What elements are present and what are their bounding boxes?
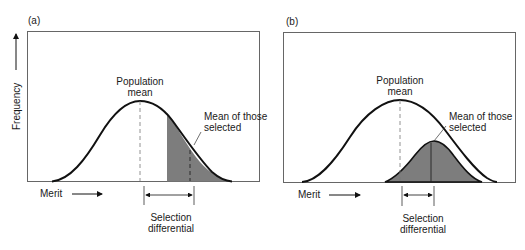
selected-curve [385,141,482,182]
selection-differential-label: Selection differential [140,212,202,234]
merit-axis-label: Merit [298,189,320,200]
population-mean-label-line1: Population [112,76,168,87]
population-mean-label: Population mean [372,75,428,97]
population-mean-label-line2: mean [112,87,168,98]
sd-label-line1: Selection [392,213,454,224]
selected-mean-leader [434,126,446,141]
selected-mean-leader [194,132,201,145]
selected-mean-label-line2: selected [204,122,267,133]
sd-label-line1: Selection [140,212,202,223]
selected-mean-label-line2: selected [449,122,512,133]
selected-mean-label-line1: Mean of those [449,111,512,122]
panel-a-tag: (a) [28,15,40,26]
sd-label-line2: differential [392,224,454,235]
selected-mean-label-line1: Mean of those [204,111,267,122]
sd-label-line2: differential [140,223,202,234]
population-mean-label: Population mean [112,76,168,98]
frequency-axis-label: Frequency [11,83,22,130]
selected-mean-label: Mean of those selected [204,111,267,133]
selection-differential-label: Selection differential [392,213,454,235]
panel-b-tag: (b) [286,16,298,27]
population-mean-label-line2: mean [372,86,428,97]
population-mean-label-line1: Population [372,75,428,86]
merit-axis-label: Merit [40,188,62,199]
selected-mean-label: Mean of those selected [449,111,512,133]
panel-a-frame [28,32,260,182]
panel-b-frame [284,33,516,183]
